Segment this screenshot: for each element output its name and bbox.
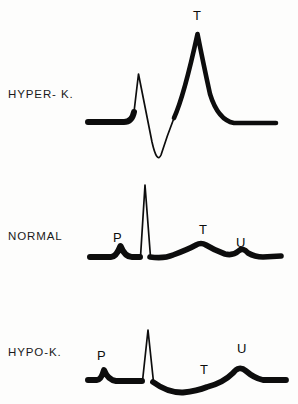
wave-label-p-normal: P xyxy=(113,230,122,245)
wave-label-t-normal: T xyxy=(199,222,207,237)
hyper-k-baseline-left xyxy=(88,112,134,122)
hyper-k-qrs-complex xyxy=(134,74,174,158)
wave-label-p-hypo-k: P xyxy=(97,348,106,363)
normal-qrs-complex xyxy=(141,185,151,257)
normal-t-and-u-waves xyxy=(150,244,281,258)
hypo-k-qrs-complex xyxy=(143,330,154,382)
ecg-potassium-figure: HYPER- K. NORMAL HYPO-K. T P T U P T U xyxy=(0,0,298,404)
wave-label-t-hypo-k: T xyxy=(200,362,208,377)
hyper-k-t-wave xyxy=(174,34,276,123)
row-label-hypo-k: HYPO-K. xyxy=(8,346,62,358)
wave-label-t-hyper-k: T xyxy=(193,8,201,23)
hypo-k-p-wave-and-baseline xyxy=(88,370,142,381)
hypo-k-t-and-u-waves xyxy=(153,368,286,392)
row-label-normal: NORMAL xyxy=(8,230,63,242)
wave-label-u-hypo-k: U xyxy=(237,341,247,356)
ecg-traces xyxy=(0,0,298,404)
wave-label-u-normal: U xyxy=(236,235,246,250)
normal-p-wave-and-baseline xyxy=(90,246,140,257)
row-label-hyper-k: HYPER- K. xyxy=(8,88,74,100)
